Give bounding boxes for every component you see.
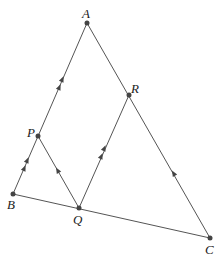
segment-ac xyxy=(87,23,210,238)
point-c xyxy=(208,236,213,241)
label-c: C xyxy=(205,242,214,257)
geometry-diagram: A R P B Q C xyxy=(0,0,223,259)
point-a xyxy=(85,21,90,26)
segment-qr xyxy=(79,95,129,208)
label-p: P xyxy=(26,125,35,140)
single-arrow-icon xyxy=(54,166,61,174)
label-r: R xyxy=(130,81,139,96)
point-q xyxy=(77,206,82,211)
segment-bc xyxy=(13,194,210,238)
label-b: B xyxy=(7,197,15,212)
point-p xyxy=(36,134,41,139)
label-a: A xyxy=(81,6,90,21)
point-b xyxy=(11,192,16,197)
label-q: Q xyxy=(73,212,83,227)
